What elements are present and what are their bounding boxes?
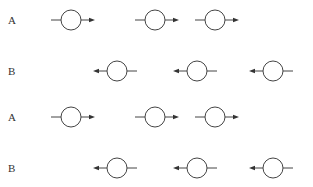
dipole-left-arrow-icon — [249, 158, 293, 178]
dipole-left-arrow-icon — [93, 158, 137, 178]
diagram-row-a: A — [8, 10, 239, 30]
dipole-left-arrow-icon — [93, 61, 137, 81]
dipole-left-arrow-icon — [249, 61, 293, 81]
diagram-row-b: B — [8, 61, 293, 81]
dipole-right-arrow-icon — [195, 107, 239, 127]
diagram-row-b: B — [8, 158, 293, 178]
diagram-row-a: A — [8, 107, 239, 127]
dipole-right-arrow-icon — [135, 107, 179, 127]
dipole-right-arrow-icon — [135, 10, 179, 30]
dipole-left-arrow-icon — [173, 158, 217, 178]
row-label: A — [8, 111, 16, 123]
row-label: B — [8, 65, 15, 77]
dipole-right-arrow-icon — [195, 10, 239, 30]
row-label: A — [8, 14, 16, 26]
dipole-right-arrow-icon — [51, 107, 95, 127]
diagram-canvas: ABAB — [0, 0, 313, 187]
dipole-left-arrow-icon — [173, 61, 217, 81]
row-label: B — [8, 162, 15, 174]
dipole-right-arrow-icon — [51, 10, 95, 30]
